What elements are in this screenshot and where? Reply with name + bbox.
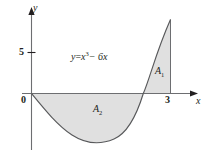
x-tick-label-3: 3 <box>165 95 170 105</box>
region-label-A1: A1 <box>155 66 164 79</box>
figure-area-under-cubic-curve: y x 0 5 3 A1 A2 y=x3− 6x <box>0 0 207 151</box>
y-tick-label-5: 5 <box>19 47 24 57</box>
equation-tail: − 6x <box>89 51 108 62</box>
plot-canvas <box>0 0 207 151</box>
shaded-region-A2 <box>32 94 144 143</box>
equation-annotation: y=x3− 6x <box>71 52 107 62</box>
origin-label: 0 <box>21 95 26 105</box>
region-label-A1-index: 1 <box>161 71 164 78</box>
region-label-A2: A2 <box>93 104 102 117</box>
x-axis-label: x <box>196 96 200 106</box>
region-label-A2-index: 2 <box>99 109 102 116</box>
y-axis-label: y <box>33 3 37 13</box>
